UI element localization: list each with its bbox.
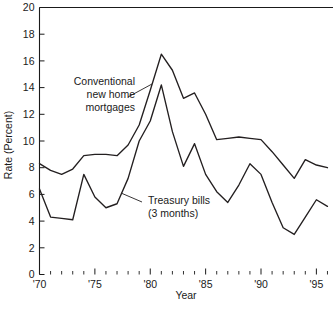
y-tick-label-12: 12 [23,108,35,120]
annotation-mortgages-line-0: Conventional [74,75,135,87]
y-tick-label-8: 8 [29,161,35,173]
annotation-treasury-line-1: (3 months) [148,207,198,219]
plot-axis-frame [40,8,333,275]
y-tick-label-4: 4 [29,215,35,227]
x-tick-label-1970: '70 [33,278,47,290]
x-tick-label-1985: '85 [199,278,213,290]
annotation-treasury: Treasury bills(3 months) [121,193,210,219]
x-axis-major-tick-marks [40,269,317,275]
x-tick-label-1975: '75 [88,278,102,290]
y-tick-label-10: 10 [23,135,35,147]
interest-rates-line-chart: 02468101214161820 '70'75'80'85'90'95 Con… [0,0,333,313]
annotation-mortgages-line-2: mortgages [85,101,135,113]
y-tick-label-18: 18 [23,28,35,40]
x-axis-tick-labels: '70'75'80'85'90'95 [33,278,324,290]
annotation-treasury-line-0: Treasury bills [148,194,210,206]
x-tick-label-1990: '90 [254,278,268,290]
annotation-mortgages: Conventionalnew homemortgages [74,75,152,113]
y-tick-label-2: 2 [29,242,35,254]
chart-container: 02468101214161820 '70'75'80'85'90'95 Con… [0,0,333,313]
y-tick-label-16: 16 [23,55,35,67]
y-tick-label-20: 20 [23,1,35,13]
annotation-mortgages-line-1: new home [87,88,136,100]
y-tick-label-14: 14 [23,81,35,93]
leader-line-treasury [121,193,142,202]
x-axis-minor-tick-marks [51,271,328,275]
series-annotations-group: Conventionalnew homemortgagesTreasury bi… [74,75,210,219]
x-axis-title: Year [175,289,197,301]
x-tick-label-1980: '80 [143,278,157,290]
y-axis-tick-marks [40,8,45,275]
y-axis-tick-labels: 02468101214161820 [23,1,35,280]
y-axis-title: Rate (Percent) [2,111,14,179]
y-tick-label-6: 6 [29,188,35,200]
series-line-conventional-new-home-mortgages [40,54,328,178]
x-tick-label-1995: '95 [310,278,324,290]
